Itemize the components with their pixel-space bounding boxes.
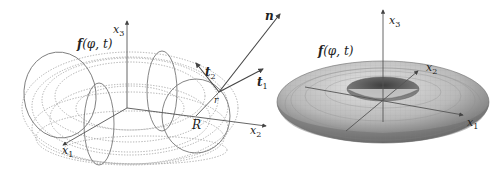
torus-figure: f(φ, t) x3 x1 x2 R r n t1 t2 <box>0 0 500 174</box>
major-radius-label: R <box>191 118 201 132</box>
left-x3-label: x3 <box>113 23 124 38</box>
tangent1-label: t1 <box>257 75 268 91</box>
normal-vector-label: n <box>265 9 274 23</box>
minor-radius-label: r <box>214 95 219 105</box>
tangent2-label: t2 <box>205 65 216 81</box>
left-x2-label: x2 <box>250 124 261 139</box>
right-surface-label: f(φ, t) <box>317 44 354 58</box>
frame-vectors <box>196 14 280 92</box>
normal-vector <box>219 14 280 92</box>
left-surface-label: f(φ, t) <box>76 37 113 51</box>
left-panel-parametrization: f(φ, t) x3 x1 x2 R r n t1 t2 <box>20 9 280 165</box>
right-x2-label: x2 <box>426 61 437 76</box>
x1-axis <box>63 108 127 145</box>
right-x3-label: x3 <box>389 14 400 29</box>
right-panel-torus-surface: f(φ, t) x3 x2 x1 <box>277 10 489 143</box>
left-x1-label: x1 <box>62 144 73 159</box>
